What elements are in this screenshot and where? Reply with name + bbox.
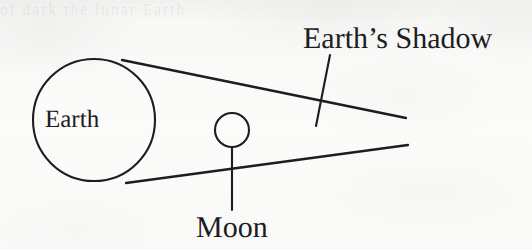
shadow-cone-lower-line <box>126 145 408 183</box>
earths-shadow-label: Earth’s Shadow <box>303 24 492 54</box>
earth-label: Earth <box>45 107 99 132</box>
shadow-leader-line <box>316 55 330 126</box>
moon-circle <box>215 113 249 147</box>
moon-label: Moon <box>196 213 268 243</box>
lunar-eclipse-diagram: of dark the lunar Earth Earth Moon Earth… <box>0 0 532 249</box>
shadow-cone-upper-line <box>122 60 406 118</box>
